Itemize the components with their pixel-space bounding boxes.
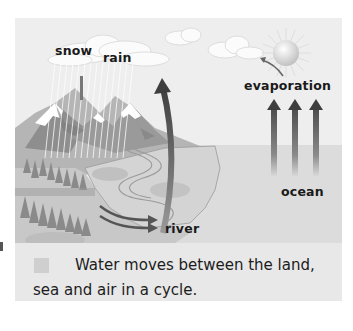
label-ocean: ocean <box>281 184 324 199</box>
label-evaporation: evaporation <box>244 78 331 93</box>
water-cycle-diagram: snow rain evaporation ocean river <box>15 18 342 243</box>
snow-pointer <box>80 76 83 100</box>
caption-text: Water moves between the land, sea and ai… <box>33 253 333 303</box>
label-snow: snow <box>55 43 92 58</box>
sun-icon <box>261 28 311 78</box>
label-rain: rain <box>103 50 132 65</box>
figure-panel: snow rain evaporation ocean river Water … <box>15 18 342 301</box>
page-edge-mark <box>0 242 3 251</box>
figure-caption: Water moves between the land, sea and ai… <box>15 243 342 301</box>
label-river: river <box>165 221 199 236</box>
evaporation-arrows <box>267 99 323 176</box>
